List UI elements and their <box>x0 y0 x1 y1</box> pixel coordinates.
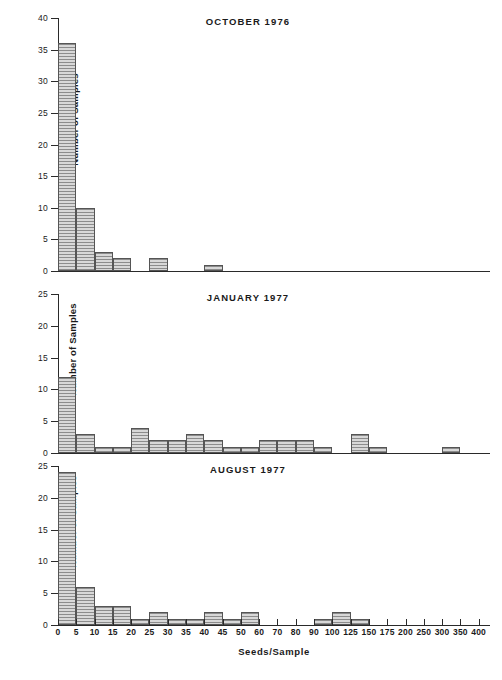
y-tick-label: 35 <box>24 45 48 55</box>
histogram-bar <box>241 447 259 453</box>
x-tick-label: 0 <box>56 627 61 637</box>
histogram-bar <box>95 447 113 453</box>
y-tick-label: 25 <box>24 108 48 118</box>
histogram-bar <box>76 434 94 453</box>
y-tick-label: 15 <box>24 171 48 181</box>
histogram-bar <box>204 440 222 453</box>
plot-area-august-1977: AUGUST 1977 Number of Samples 0510152025 <box>58 466 490 626</box>
x-tick <box>259 619 260 625</box>
histogram-bar <box>149 440 167 453</box>
x-tick <box>149 619 150 625</box>
x-tick-label: 125 <box>343 627 358 637</box>
y-tick <box>51 18 58 19</box>
x-tick-label: 15 <box>108 627 118 637</box>
y-tick <box>51 145 58 146</box>
x-tick-label: 150 <box>362 627 377 637</box>
histogram-bar <box>351 434 369 453</box>
x-tick-label: 50 <box>236 627 246 637</box>
y-tick <box>51 326 58 327</box>
y-tick-label: 0 <box>24 620 48 630</box>
x-tick <box>296 619 297 625</box>
y-tick <box>51 625 58 626</box>
x-tick <box>241 619 242 625</box>
x-tick <box>351 619 352 625</box>
y-tick-label: 10 <box>24 203 48 213</box>
x-tick <box>277 619 278 625</box>
chart-panel-august-1977: AUGUST 1977 Number of Samples 0510152025 <box>0 456 502 636</box>
y-tick <box>51 358 58 359</box>
histogram-bar <box>58 472 76 625</box>
y-tick-label: 25 <box>24 461 48 471</box>
histogram-bar <box>204 265 222 271</box>
chart-panel-january-1977: JANUARY 1977 Number of Samples 051015202… <box>0 286 502 458</box>
x-tick <box>332 619 333 625</box>
y-tick-label: 10 <box>24 384 48 394</box>
y-tick-label: 15 <box>24 353 48 363</box>
x-tick-label: 25 <box>145 627 155 637</box>
histogram-bar <box>149 258 167 271</box>
histogram-bar <box>113 258 131 271</box>
histogram-bar <box>369 447 387 453</box>
x-axis-line-january-1977 <box>58 453 490 454</box>
x-tick <box>460 619 461 625</box>
y-tick-label: 5 <box>24 588 48 598</box>
x-tick-label: 60 <box>254 627 264 637</box>
y-tick <box>51 561 58 562</box>
bars-october-1976 <box>58 18 490 271</box>
shared-x-axis: 0510152025303540455060708090100125150175… <box>58 619 490 675</box>
x-tick <box>131 619 132 625</box>
y-tick <box>51 498 58 499</box>
chart-panel-october-1976: OCTOBER 1976 Number of Samples 051015202… <box>0 0 502 290</box>
histogram-bar <box>58 377 76 453</box>
x-tick-label: 5 <box>74 627 79 637</box>
x-tick <box>314 619 315 625</box>
x-tick-label: 10 <box>90 627 100 637</box>
histogram-bar <box>131 428 149 453</box>
histogram-bar <box>168 440 186 453</box>
y-tick-label: 5 <box>24 416 48 426</box>
y-tick <box>51 453 58 454</box>
x-tick <box>58 619 59 625</box>
histogram-bar <box>58 43 76 271</box>
x-tick-label: 175 <box>380 627 395 637</box>
x-tick <box>406 619 407 625</box>
y-tick <box>51 113 58 114</box>
y-tick-label: 0 <box>24 266 48 276</box>
x-tick <box>223 619 224 625</box>
histogram-bar <box>186 434 204 453</box>
y-tick <box>51 81 58 82</box>
x-tick-label: 70 <box>273 627 283 637</box>
y-tick-label: 30 <box>24 76 48 86</box>
y-tick <box>51 530 58 531</box>
histogram-bar <box>113 447 131 453</box>
seeds-per-sample-histogram-figure: OCTOBER 1976 Number of Samples 051015202… <box>0 0 502 680</box>
x-tick <box>442 619 443 625</box>
y-tick <box>51 50 58 51</box>
x-tick-label: 400 <box>471 627 486 637</box>
y-tick <box>51 176 58 177</box>
x-tick <box>95 619 96 625</box>
bars-august-1977 <box>58 466 490 625</box>
plot-area-october-1976: OCTOBER 1976 Number of Samples 051015202… <box>58 18 490 272</box>
bars-january-1977 <box>58 294 490 453</box>
x-tick <box>186 619 187 625</box>
x-tick-label: 30 <box>163 627 173 637</box>
y-tick-label: 40 <box>24 13 48 23</box>
y-tick-label: 10 <box>24 556 48 566</box>
y-tick <box>51 271 58 272</box>
x-tick-label: 250 <box>416 627 431 637</box>
histogram-bar <box>277 440 295 453</box>
histogram-bar <box>296 440 314 453</box>
y-tick-label: 15 <box>24 525 48 535</box>
histogram-bar <box>76 208 94 271</box>
y-tick <box>51 593 58 594</box>
histogram-bar <box>259 440 277 453</box>
y-tick-label: 25 <box>24 289 48 299</box>
x-tick-label: 350 <box>453 627 468 637</box>
histogram-bar <box>223 447 241 453</box>
x-tick <box>387 619 388 625</box>
x-tick <box>424 619 425 625</box>
histogram-bar <box>95 252 113 271</box>
y-tick <box>51 466 58 467</box>
x-tick-label: 300 <box>435 627 450 637</box>
